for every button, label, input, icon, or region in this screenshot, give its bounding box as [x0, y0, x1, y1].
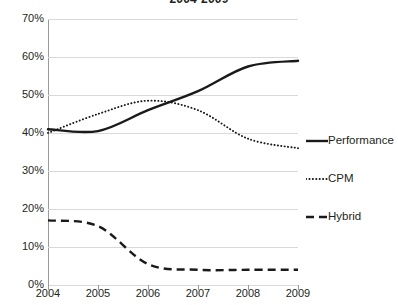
dotted-line-marker [306, 173, 328, 185]
y-tick-label: 30% [2, 165, 44, 176]
x-axis-tick [198, 285, 199, 290]
x-axis-tick [298, 285, 299, 290]
chart-root: 2004-2009 70%60%50%40%30%20%10%0% 200420… [0, 0, 398, 305]
x-axis-tick [148, 285, 149, 290]
y-axis-labels: 70%60%50%40%30%20%10%0% [0, 0, 44, 305]
series-line-performance [48, 61, 298, 132]
solid-line-marker [306, 135, 328, 147]
legend-label-performance: Performance [328, 134, 394, 146]
y-tick-label: 20% [2, 203, 44, 214]
chart-legend: Performance CPM Hybrid [306, 134, 398, 248]
series-line-hybrid [48, 220, 298, 270]
legend-item-hybrid: Hybrid [306, 210, 398, 248]
y-tick-label: 60% [2, 51, 44, 62]
legend-label-hybrid: Hybrid [328, 210, 361, 222]
series-layer [48, 19, 298, 285]
y-tick-label: 50% [2, 89, 44, 100]
dashed-line-marker [306, 211, 328, 223]
series-line-cpm [48, 101, 298, 149]
legend-item-performance: Performance [306, 134, 398, 172]
y-tick-label: 10% [2, 241, 44, 252]
x-axis-tick [98, 285, 99, 290]
y-tick-label: 40% [2, 127, 44, 138]
y-tick-label: 70% [2, 13, 44, 24]
gridline [48, 285, 298, 286]
x-axis-labels: 200420052006200720082009 [0, 288, 398, 304]
chart-title: 2004-2009 [0, 0, 398, 6]
x-axis-tick [248, 285, 249, 290]
legend-item-cpm: CPM [306, 172, 398, 210]
x-axis-tick [48, 285, 49, 290]
plot-area [48, 19, 298, 285]
legend-label-cpm: CPM [328, 172, 354, 184]
